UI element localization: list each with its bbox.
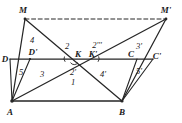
vertex-label-Kprime: K' xyxy=(89,50,98,59)
region-label-4-prime: 4' xyxy=(100,70,106,79)
figure-canvas xyxy=(0,0,182,123)
vertex-label-B: B xyxy=(119,108,125,117)
vertex-label-M: M xyxy=(19,6,27,15)
segment-M-to-B xyxy=(25,19,122,101)
vertex-dot-B xyxy=(120,99,123,102)
segment-Mprime-to-A xyxy=(12,19,166,101)
vertex-dot-M xyxy=(24,18,27,21)
region-label-3-prime: 3' xyxy=(136,42,142,51)
region-label-5-prime: 5' xyxy=(136,67,142,76)
region-label-1: 1 xyxy=(71,78,75,87)
region-label-3: 3 xyxy=(40,70,44,79)
segment-B-to-C xyxy=(122,59,137,101)
vertex-dot-Mprime xyxy=(165,18,168,21)
geometry-figure: M M' D D' K K' C C' A B 4 2 2''' 3' 5 3 … xyxy=(0,0,182,123)
region-label-4: 4 xyxy=(30,36,34,45)
vertex-dot-A xyxy=(10,99,14,103)
vertex-label-Cprime: C' xyxy=(153,52,162,61)
vertex-label-Mprime: M' xyxy=(161,6,172,15)
segment-M-to-A xyxy=(12,19,25,101)
vertex-label-C: C xyxy=(128,50,134,59)
edge-group xyxy=(10,19,166,101)
vertex-dot-Dprime xyxy=(29,58,31,60)
region-label-2-triple: 2''' xyxy=(92,41,102,50)
segment-A-to-D xyxy=(10,59,12,101)
vertex-label-A: A xyxy=(7,108,13,117)
region-label-2-prime: 2' xyxy=(70,68,76,77)
region-label-2: 2 xyxy=(65,42,69,51)
vertex-label-D: D xyxy=(2,55,9,64)
region-label-5: 5 xyxy=(19,68,23,77)
vertex-label-K: K xyxy=(75,50,81,59)
vertex-label-Dprime: D' xyxy=(29,48,38,57)
